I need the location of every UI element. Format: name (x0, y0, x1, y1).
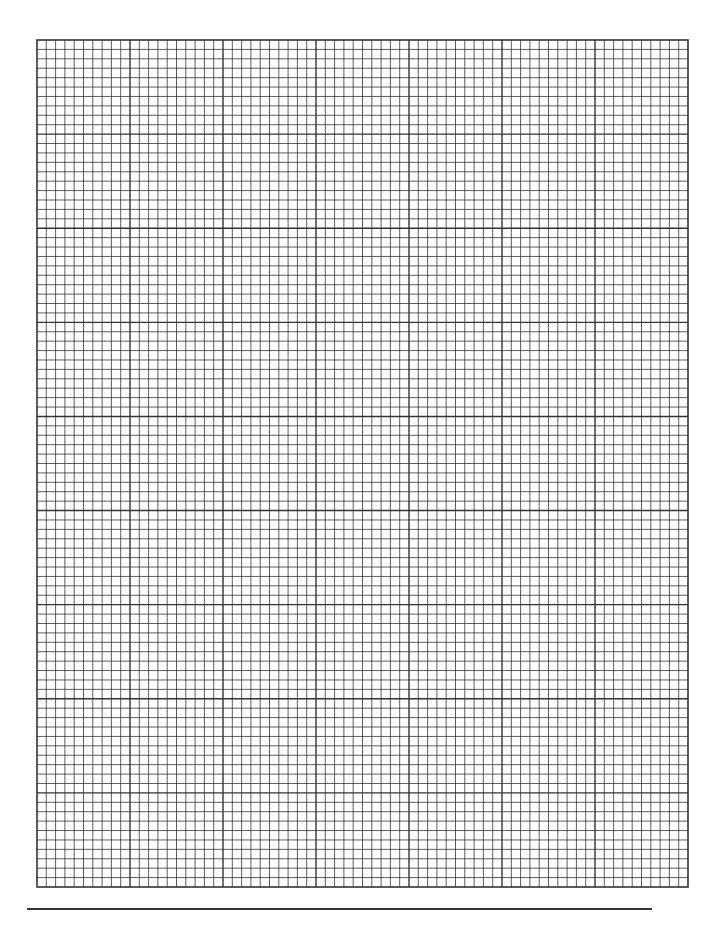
footer-rule (27, 908, 652, 910)
graph-paper-grid (36, 39, 689, 888)
